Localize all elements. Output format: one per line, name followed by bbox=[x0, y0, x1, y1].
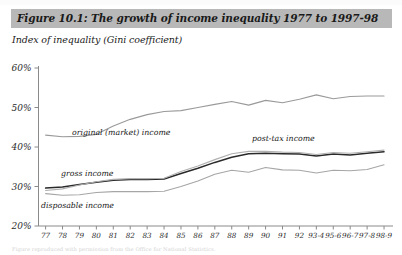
x-tick-label: 87 bbox=[210, 231, 220, 240]
x-axis-tick-labels: 7778798081828384858687888990919293-495-6… bbox=[41, 231, 392, 240]
x-tick-label: 88 bbox=[227, 231, 237, 240]
x-tick-label: 79 bbox=[75, 231, 85, 240]
y-tick-label: 60% bbox=[11, 63, 31, 73]
series-annotation-label: post-tax income bbox=[252, 134, 315, 143]
x-tick-label: 80 bbox=[92, 231, 102, 240]
x-tick-label: 97-8 bbox=[359, 231, 376, 240]
y-tick-label: 50% bbox=[11, 103, 31, 113]
y-tick-marks bbox=[35, 68, 39, 226]
x-tick-label: 90 bbox=[261, 231, 271, 240]
figure-container: Figure 10.1: The growth of income inequa… bbox=[0, 0, 402, 255]
series-annotation-label: gross income bbox=[61, 169, 114, 178]
source-caption: Figure reproduced with permission from t… bbox=[12, 246, 215, 252]
y-axis-tick-labels: 20%30%40%50%60% bbox=[10, 63, 31, 231]
x-tick-label: 91 bbox=[278, 231, 287, 240]
x-tick-label: 84 bbox=[159, 231, 169, 240]
x-tick-label: 95-6 bbox=[325, 231, 342, 240]
x-tick-label: 98-9 bbox=[376, 231, 393, 240]
x-tick-label: 92 bbox=[295, 231, 305, 240]
x-tick-label: 89 bbox=[244, 231, 254, 240]
x-tick-label: 83 bbox=[143, 231, 153, 240]
chart-plot-area: 20%30%40%50%60% 777879808182838485868788… bbox=[0, 0, 402, 255]
line-chart-svg: 20%30%40%50%60% 777879808182838485868788… bbox=[0, 0, 402, 255]
x-tick-label: 86 bbox=[193, 231, 203, 240]
x-tick-label: 81 bbox=[109, 231, 118, 240]
x-tick-label: 85 bbox=[176, 231, 186, 240]
series-annotation-label: original (market) income bbox=[72, 128, 171, 137]
x-tick-label: 77 bbox=[41, 231, 51, 240]
chart-series-lines bbox=[46, 95, 384, 195]
series-annotation-label: disposable income bbox=[41, 201, 114, 210]
x-tick-label: 93-4 bbox=[308, 231, 325, 240]
x-tick-label: 82 bbox=[126, 231, 136, 240]
x-tick-label: 78 bbox=[58, 231, 68, 240]
x-tick-label: 96-7 bbox=[342, 231, 359, 240]
y-tick-label: 20% bbox=[10, 221, 31, 231]
y-tick-label: 40% bbox=[10, 142, 31, 152]
x-tick-marks bbox=[46, 226, 384, 230]
y-tick-label: 30% bbox=[11, 182, 31, 192]
